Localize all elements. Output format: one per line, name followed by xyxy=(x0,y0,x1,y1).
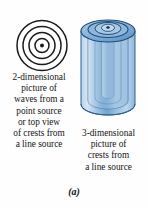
cylinder-top-ellipses xyxy=(81,20,135,42)
point-source-dot xyxy=(40,44,44,48)
concentric-circles-diagram xyxy=(14,19,70,73)
nested-cylinder-diagram xyxy=(78,18,138,124)
caption-2d-line-6: of crests from xyxy=(1,128,77,139)
caption-3d-line-3: crests from xyxy=(70,150,147,161)
caption-2d-line-4: point source xyxy=(1,106,77,117)
caption-2d-line-7: a line source xyxy=(1,139,77,150)
caption-2d-picture: 2-dimensional picture of waves from a po… xyxy=(1,72,77,150)
panel-label: (a) xyxy=(0,186,148,197)
caption-2d-line-1: 2-dimensional xyxy=(1,72,77,83)
caption-3d-line-2: picture of xyxy=(70,139,147,150)
figure-panel: 2-dimensional picture of waves from a po… xyxy=(0,0,148,208)
caption-2d-line-2: picture of xyxy=(1,83,77,94)
caption-3d-picture: 3-dimensional picture of crests from a l… xyxy=(70,128,147,173)
caption-3d-line-4: a line source xyxy=(70,162,147,173)
line-source-dot xyxy=(106,26,110,28)
caption-2d-line-3: waves from a xyxy=(1,94,77,105)
caption-2d-line-5: or top view xyxy=(1,117,77,128)
caption-3d-line-1: 3-dimensional xyxy=(70,128,147,139)
